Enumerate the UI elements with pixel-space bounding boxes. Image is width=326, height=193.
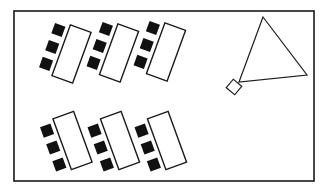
chair	[135, 124, 149, 138]
chair	[147, 157, 161, 171]
desk-group-bottom-3	[133, 111, 186, 174]
chair	[94, 140, 108, 154]
chair	[141, 140, 155, 154]
chair	[39, 57, 53, 71]
desk-group-top-1	[38, 20, 91, 83]
chair	[87, 56, 101, 70]
chair	[146, 21, 160, 35]
desk-group-bottom-1	[39, 111, 92, 174]
chair	[99, 22, 113, 36]
chair	[100, 157, 114, 171]
desk-group-bottom-2	[86, 111, 139, 174]
chair	[45, 40, 59, 54]
desk-group-top-2	[85, 19, 138, 82]
chair	[52, 157, 66, 171]
chair	[40, 124, 54, 138]
chair	[88, 124, 102, 138]
teacher-sightline-triangle	[239, 17, 307, 82]
chair	[46, 140, 60, 154]
chair	[93, 39, 107, 53]
teacher-area	[226, 17, 307, 95]
chair	[51, 23, 65, 37]
diagram-canvas	[0, 0, 326, 193]
desk-group-top-3	[132, 18, 185, 81]
classroom-layout-diagram	[0, 0, 326, 193]
desk-groups	[38, 18, 187, 175]
chair	[140, 38, 154, 52]
chair	[134, 55, 148, 69]
